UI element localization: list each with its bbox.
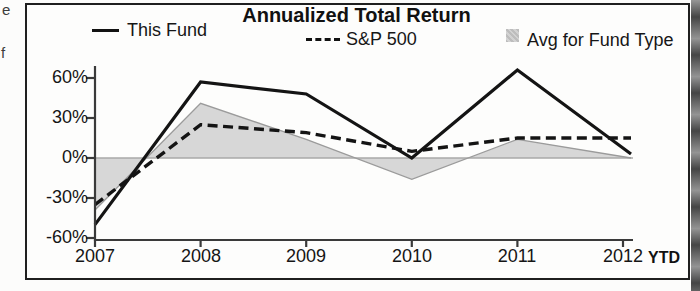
x-axis-ytd-label: YTD [648, 249, 680, 267]
chart-title: Annualized Total Return [25, 4, 688, 27]
legend-avg-fund-type-label: Avg for Fund Type [527, 30, 673, 51]
x-tick-label-2009: 2009 [274, 246, 338, 267]
y-tick-label-60: 60% [20, 67, 88, 88]
legend-sp500-label: S&P 500 [346, 29, 417, 50]
x-tick-label-2012: 2012 [591, 246, 655, 267]
page-edge-shadow [691, 0, 700, 291]
x-tick-label-2008: 2008 [169, 246, 233, 267]
scanned-page: e f Annualized Total Return This Fund S&… [0, 0, 700, 291]
legend-dashed-line-icon [306, 38, 340, 41]
x-tick-label-2010: 2010 [380, 246, 444, 267]
y-tick-label-0: 0% [20, 147, 88, 168]
legend-shaded-square-icon [506, 29, 519, 42]
x-tick-label-2007: 2007 [63, 246, 127, 267]
legend-this-fund-label: This Fund [127, 20, 207, 41]
x-tick-label-2011: 2011 [485, 246, 549, 267]
legend-solid-line-icon [92, 29, 119, 32]
y-tick-label-neg60: -60% [20, 227, 88, 248]
y-tick-label-neg30: -30% [20, 187, 88, 208]
y-tick-label-30: 30% [20, 107, 88, 128]
